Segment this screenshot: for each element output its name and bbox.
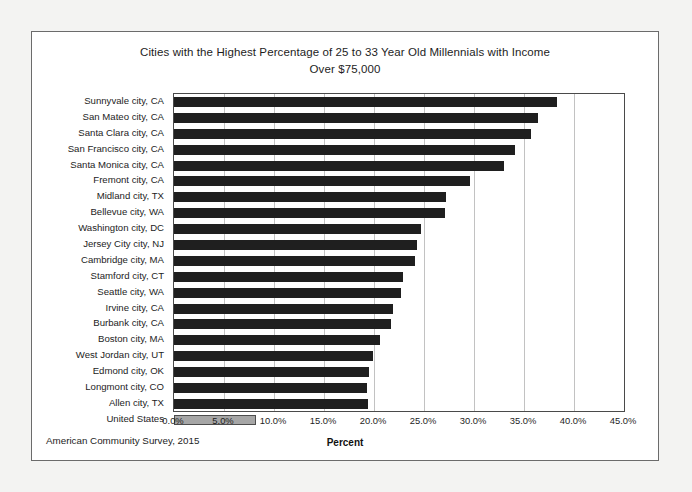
x-tick-label: 45.0% [610,415,637,426]
bar [174,224,421,234]
bar-row [174,269,624,285]
bar-row [174,364,624,380]
y-axis-label: Sunnyvale city, CA [32,93,169,109]
bar [174,240,417,250]
x-tick-label: 15.0% [310,415,337,426]
x-tick-label: 10.0% [260,415,287,426]
bar-rows [174,94,624,411]
y-axis-label: Allen city, TX [32,395,169,411]
y-axis-label: Cambridge city, MA [32,252,169,268]
x-axis-tick-labels: 0.0%5.0%10.0%15.0%20.0%25.0%30.0%35.0%40… [173,415,625,429]
y-axis-label: Edmond city, OK [32,363,169,379]
bar [174,256,415,266]
bar-row [174,142,624,158]
bar-row [174,316,624,332]
bar [174,383,367,393]
bar [174,319,391,329]
bar [174,97,557,107]
bar [174,288,401,298]
bar [174,161,504,171]
bar-row [174,348,624,364]
y-axis-label: San Mateo city, CA [32,109,169,125]
bar-row [174,301,624,317]
chart-sheet: Cities with the Highest Percentage of 25… [31,31,659,461]
y-axis-label: Burbank city, CA [32,315,169,331]
bar [174,367,369,377]
bar-row [174,205,624,221]
bar-row [174,158,624,174]
x-tick-label: 25.0% [410,415,437,426]
bar [174,129,531,139]
bar [174,113,538,123]
bar-row [174,110,624,126]
bar [174,192,446,202]
chart-title-line1: Cities with the Highest Percentage of 25… [32,44,658,61]
bar-row [174,253,624,269]
bar-row [174,221,624,237]
bar-row [174,332,624,348]
bar [174,335,380,345]
chart-title: Cities with the Highest Percentage of 25… [32,44,658,78]
x-tick-label: 0.0% [162,415,183,426]
bar [174,351,373,361]
plot-area [173,93,625,412]
bar [174,208,445,218]
x-tick-label: 20.0% [360,415,387,426]
y-axis-label: Irvine city, CA [32,300,169,316]
bar-row [174,126,624,142]
x-tick-label: 5.0% [212,415,233,426]
bar [174,272,403,282]
bar [174,176,470,186]
bar-row [174,94,624,110]
x-tick-label: 30.0% [460,415,487,426]
x-tick-label: 35.0% [510,415,537,426]
bar-row [174,189,624,205]
chart-title-line2: Over $75,000 [32,61,658,78]
screenshot-page: Cities with the Highest Percentage of 25… [0,0,692,492]
bar-row [174,285,624,301]
y-axis-label: Seattle city, WA [32,284,169,300]
bar [174,304,393,314]
y-axis-label: Jersey City city, NJ [32,236,169,252]
bar-row [174,237,624,253]
y-axis-label: Fremont city, CA [32,172,169,188]
y-axis-label: Stamford city, CT [32,268,169,284]
y-axis-label: Santa Monica city, CA [32,157,169,173]
bar [174,399,368,409]
y-axis-label: West Jordan city, UT [32,347,169,363]
y-axis-label: Boston city, MA [32,331,169,347]
bar-row [174,173,624,189]
y-axis-label: Washington city, DC [32,220,169,236]
y-axis-label: San Francisco city, CA [32,141,169,157]
y-axis-labels: Sunnyvale city, CASan Mateo city, CASant… [32,93,169,412]
y-axis-label: Bellevue city, WA [32,204,169,220]
y-axis-label: United States [32,411,169,427]
x-tick-label: 40.0% [560,415,587,426]
bar [174,145,515,155]
bar-row [174,380,624,396]
source-note: American Community Survey, 2015 [46,435,199,446]
y-axis-label: Longmont city, CO [32,379,169,395]
y-axis-label: Santa Clara city, CA [32,125,169,141]
y-axis-label: Midland city, TX [32,188,169,204]
bar-row [174,396,624,412]
